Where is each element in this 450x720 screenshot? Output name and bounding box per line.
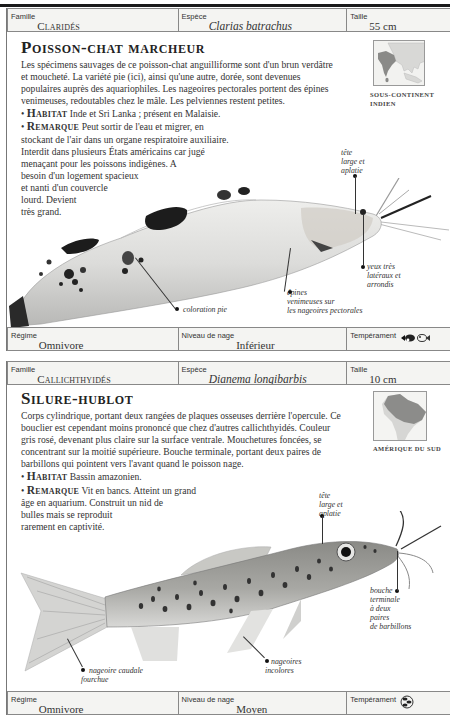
map-caption-line: Sous-continent xyxy=(370,90,434,99)
family-label: Famille xyxy=(11,12,35,21)
annotation-pattern: coloration pie xyxy=(183,305,227,314)
annotation-line: yeux très xyxy=(367,262,401,271)
diet-value: Omnivore xyxy=(39,339,84,350)
remark-line-2: Interdit dans plusieurs États américains… xyxy=(21,146,336,158)
species-cell: EspèceClarias batrachus xyxy=(179,9,348,31)
annotation-tail: nageoire caudale fourchue xyxy=(81,666,143,684)
annotation-line: venimeuses sur xyxy=(287,297,363,306)
family-value: Claridés xyxy=(37,20,80,31)
top-rule xyxy=(0,4,450,7)
leader-dot xyxy=(288,290,292,294)
swim-level-value: Inférieur xyxy=(236,339,274,350)
species-label: Espèce xyxy=(182,365,207,374)
asia-map-icon xyxy=(374,41,425,86)
annotation-line: épines xyxy=(287,288,363,297)
description: Les spécimens sauvages de ce poisson-cha… xyxy=(21,59,336,107)
diet-label: Régime xyxy=(11,331,37,340)
remark-line-3: menaçant pour les poissons indigènes. A xyxy=(21,158,336,170)
temperament-cell: Tempérament xyxy=(347,328,450,350)
habitat-label: Habitat xyxy=(27,107,68,119)
annotation-eyes: yeux très latéraux et arrondis xyxy=(367,262,401,289)
temperament-cell: Tempérament xyxy=(347,692,450,714)
remark-line-0: Vit en bancs. Atteint un grand xyxy=(81,485,196,496)
family-value: Callichthyidés xyxy=(37,373,111,384)
species-header-bar: FamilleCallichthyidés EspèceDianema long… xyxy=(7,361,450,385)
species-footer-bar: RégimeOmnivore Niveau de nageMoyen Tempé… xyxy=(7,691,450,715)
remark-line: • Remarque Peut sortir de l'eau et migre… xyxy=(21,120,336,133)
annotation-line: bouche xyxy=(370,586,411,595)
species-footer-bar: RégimeOmnivore Niveau de nageInférieur T… xyxy=(7,327,450,351)
map-caption: Amérique du Sud xyxy=(373,444,441,453)
swim-level-label: Niveau de nage xyxy=(182,695,235,704)
annotation-line: terminale xyxy=(370,595,411,604)
habitat-line: • Habitat Inde et Sri Lanka ; présent en… xyxy=(21,107,336,120)
family-cell: FamilleClaridés xyxy=(8,9,179,31)
species-card-walking-catfish: FamilleClaridés EspèceClarias batrachus … xyxy=(6,8,450,351)
annotation-line: incolores xyxy=(265,666,301,675)
description: Corps cylindrique, portant deux rangées … xyxy=(21,410,343,470)
distribution-map-south-america xyxy=(373,391,427,441)
annotation-line: large et xyxy=(341,157,365,166)
annotation-head: tête large et aplatie xyxy=(341,148,365,175)
annotation-line: latéraux et xyxy=(367,271,401,280)
size-cell: Taille55 cm xyxy=(347,9,450,31)
species-value: Dianema longibarbis xyxy=(209,373,307,384)
annotation-line: arrondis xyxy=(367,280,401,289)
habitat-line: • Habitat Bassin amazonien. xyxy=(21,470,343,483)
habitat-label: Habitat xyxy=(27,470,68,482)
annotation-line: les nageoires pectorales xyxy=(287,306,363,315)
map-caption: Sous-continent indien xyxy=(370,90,434,108)
size-label: Taille xyxy=(350,12,367,21)
habitat-value: Bassin amazonien. xyxy=(70,471,142,482)
annotation-line: paires xyxy=(370,613,411,622)
family-cell: FamilleCallichthyidés xyxy=(8,362,179,384)
species-title: Silure-hublot xyxy=(21,389,133,409)
swim-level-label: Niveau de nage xyxy=(182,331,235,340)
species-card-porthole-catfish: FamilleCallichthyidés EspèceDianema long… xyxy=(6,361,450,715)
annotation-fins: nageoires incolores xyxy=(265,657,301,675)
remark-label: Remarque xyxy=(27,484,79,496)
annotation-line: fourchue xyxy=(81,675,143,684)
annotation-line: large et xyxy=(319,500,343,509)
annotation-line: de barbillons xyxy=(370,622,411,631)
species-title: Poisson-chat marcheur xyxy=(21,38,205,58)
annotation-line: tête xyxy=(341,148,365,157)
size-value: 55 cm xyxy=(369,20,396,31)
leader-line xyxy=(397,551,398,591)
species-label: Espèce xyxy=(182,12,207,21)
habitat-value: Inde et Sri Lanka ; présent en Malaisie. xyxy=(70,108,221,119)
peaceful-community-icon xyxy=(399,694,415,710)
annotation-line: nageoire caudale xyxy=(81,666,143,675)
annotation-line: nageoires xyxy=(265,657,301,666)
diet-value: Omnivore xyxy=(39,703,84,714)
distribution-map-asia xyxy=(373,40,425,86)
remark-line: • Remarque Vit en bancs. Atteint un gran… xyxy=(21,484,343,497)
species-cell: EspèceDianema longibarbis xyxy=(179,362,348,384)
map-caption-line: indien xyxy=(370,99,434,108)
swim-level-cell: Niveau de nageMoyen xyxy=(179,692,348,714)
remark-line-1: âge en aquarium. Construit un nid de xyxy=(21,497,343,509)
diet-cell: RégimeOmnivore xyxy=(8,328,179,350)
encyclopedia-page: FamilleClaridés EspèceClarias batrachus … xyxy=(0,0,450,720)
species-header-bar: FamilleClaridés EspèceClarias batrachus … xyxy=(7,8,450,32)
aggressive-fish-icon xyxy=(399,332,435,344)
annotation-mouth: bouche terminale à deux paires de barbil… xyxy=(370,586,411,631)
diet-cell: RégimeOmnivore xyxy=(8,692,179,714)
annotation-line: coloration pie xyxy=(183,305,227,314)
swim-level-value: Moyen xyxy=(236,703,267,714)
annotation-line: à deux xyxy=(370,604,411,613)
temperament-label: Tempérament xyxy=(350,331,396,340)
leader-dot xyxy=(265,659,269,663)
leader-line xyxy=(322,516,323,544)
map-caption-line: Amérique du Sud xyxy=(373,444,441,453)
leader-dot xyxy=(81,668,85,672)
species-value: Clarias batrachus xyxy=(209,20,292,31)
annotation-line: tête xyxy=(319,491,343,500)
remark-line-0: Peut sortir de l'eau et migrer, en xyxy=(82,121,204,132)
remark-line-1: stockant de l'air dans un organe respira… xyxy=(21,134,336,146)
swim-level-cell: Niveau de nageInférieur xyxy=(179,328,348,350)
annotation-spines: épines venimeuses sur les nageoires pect… xyxy=(287,288,363,315)
family-label: Famille xyxy=(11,365,35,374)
south-america-map-icon xyxy=(374,392,427,441)
remark-label: Remarque xyxy=(27,120,79,132)
